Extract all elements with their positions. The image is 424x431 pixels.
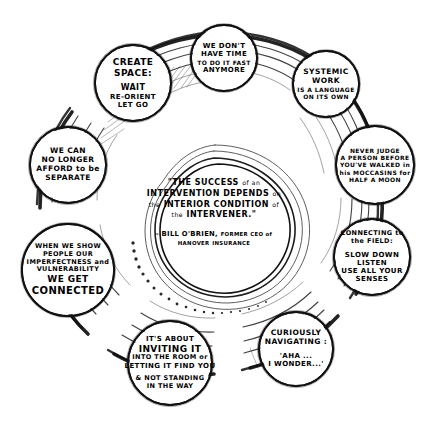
quote-line: "THE SUCCESS	[168, 178, 239, 187]
center-quote-text: "THE SUCCESS of an INTERVENTION DEPENDS …	[144, 178, 284, 221]
center-quote: "THE SUCCESS of an INTERVENTION DEPENDS …	[144, 178, 284, 248]
quote-line: INTERVENER."	[186, 210, 256, 219]
sketchnote-diagram: "THE SUCCESS of an INTERVENTION DEPENDS …	[0, 0, 424, 431]
quote-line: of an	[242, 179, 260, 186]
attribution-role-line: FORMER CEO of	[221, 231, 273, 237]
quote-line: INTERVENTION DEPENDS	[147, 189, 269, 198]
attribution-role-line: HANOVER	[178, 240, 210, 246]
center-attribution: - BILL O'BRIEN, FORMER CEO of HANOVER IN…	[144, 230, 284, 248]
quote-line: INTERIOR CONDITION	[164, 200, 269, 209]
attribution-name: - BILL O'BRIEN,	[156, 230, 218, 238]
attribution-role-line: INSURANCE	[212, 240, 250, 246]
